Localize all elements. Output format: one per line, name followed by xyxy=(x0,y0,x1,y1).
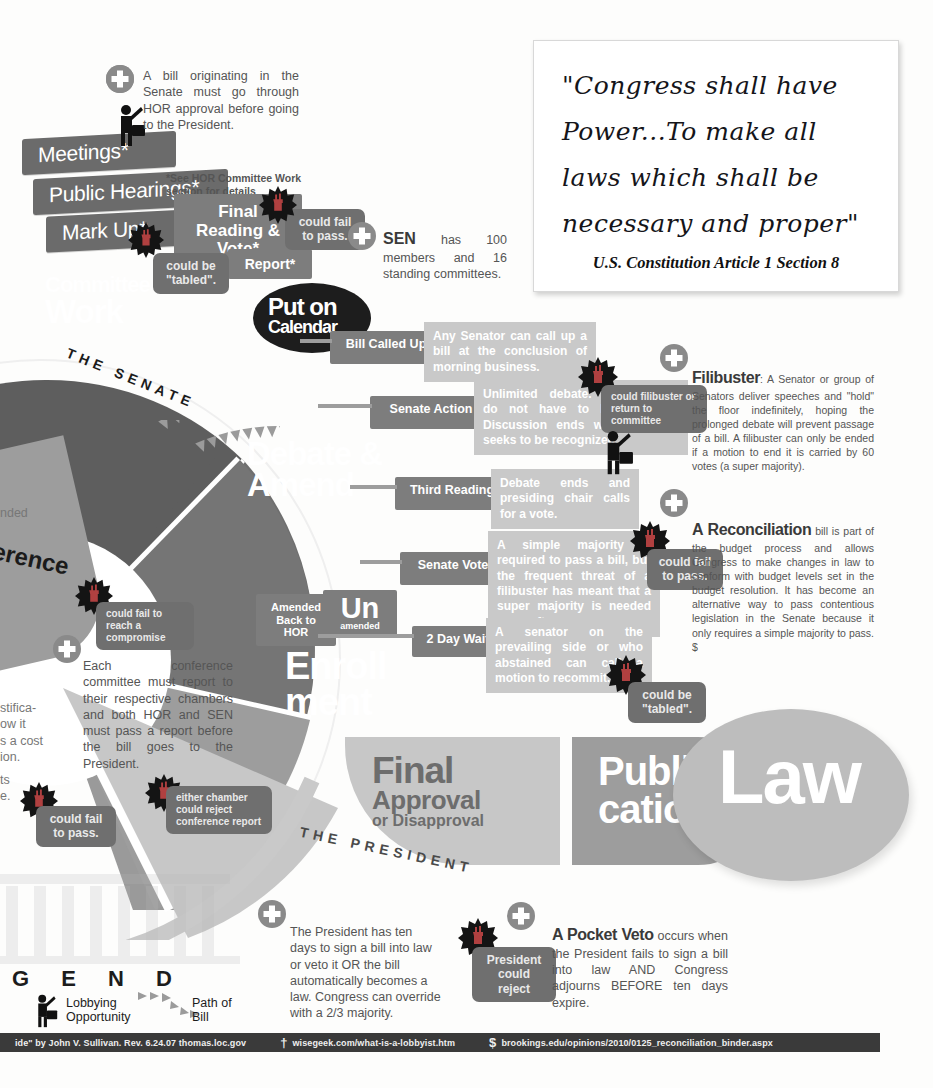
warning-could-be-tabled-2-text: could be "tabled". xyxy=(642,688,692,716)
quote-line-2: Power...To make all xyxy=(562,117,817,146)
step-report-label: Report* xyxy=(245,256,296,272)
warning-could-fail-compromise[interactable]: could fail to reach a compromise xyxy=(96,602,194,650)
warning-either-chamber-reject[interactable]: either chamber could reject conference r… xyxy=(166,786,272,834)
note-pocket-veto-title: A Pocket Veto xyxy=(552,926,654,943)
lobbyist-icon-senate xyxy=(594,423,634,477)
note-filibuster-body: : A Senator or group of Senators deliver… xyxy=(692,373,874,472)
flow-label-2-text: Third Reading xyxy=(410,483,494,497)
put-on-calendar-label: Put on Calendar xyxy=(268,296,337,336)
source-text-0: ide" by John V. Sullivan. Rev. 6.24.07 t… xyxy=(15,1038,246,1048)
flow-desc-0: Any Senator can call up a bill at the co… xyxy=(424,322,596,382)
step-meetings[interactable]: Meetings* xyxy=(22,131,176,175)
unamended-line1: Un xyxy=(329,594,391,623)
left-fragment-1: nded xyxy=(0,505,28,521)
legend-lobbying-label: Lobbying Opportunity xyxy=(66,996,131,1024)
quote-source: U.S. Constitution Article 1 Section 8 xyxy=(534,253,898,273)
final-approval-label: Final Approval or Disapproval xyxy=(372,753,484,828)
amended-line1: Amended xyxy=(271,601,321,613)
note-sen: SEN has 100 members and 16 standing comm… xyxy=(383,229,507,282)
capitol-building-ghost xyxy=(0,868,248,964)
unamended-line2: amended xyxy=(329,621,391,631)
warning-president-could-reject-text: President could reject xyxy=(487,953,542,996)
left-fragment-group-2: ts e. xyxy=(0,772,10,805)
quote-line-4-text: necessary and proper" xyxy=(562,209,859,238)
warning-could-be-tabled-2[interactable]: could be "tabled". xyxy=(628,682,706,723)
source-text-2: brookings.edu/opinions/2010/0125_reconci… xyxy=(501,1038,772,1048)
warning-either-chamber-reject-text: either chamber could reject conference r… xyxy=(176,792,261,827)
final-approval-line2: Approval xyxy=(372,788,484,813)
plus-icon-president xyxy=(258,900,286,928)
calendar-line2: Calendar xyxy=(268,319,337,336)
warning-could-be-tabled-1-text: could be "tabled". xyxy=(166,259,216,287)
note-senate-origin-text: A bill originating in the Senate must go… xyxy=(143,69,299,132)
warning-could-be-tabled-1[interactable]: could be "tabled". xyxy=(153,253,229,294)
legend-path-arrows-icon xyxy=(138,988,200,1022)
legend-path-line1: Path of xyxy=(192,996,232,1010)
flow-label-3-text: Senate Vote xyxy=(418,558,489,572)
quote-line-1: "Congress shall have xyxy=(562,71,838,100)
note-pocket-veto: A Pocket Veto occurs when the President … xyxy=(552,925,728,1011)
calendar-line1: Put on xyxy=(268,293,337,320)
note-reconciliation-body: bill is part of the budget process and a… xyxy=(692,525,874,653)
left-fragment-5-text: ion. xyxy=(0,750,20,764)
left-fragment-1-text: nded xyxy=(0,506,28,520)
left-fragment-6-text: ts xyxy=(0,773,10,787)
flow-label-4-text: 2 Day Wait xyxy=(427,632,490,646)
law-label: Law xyxy=(718,741,860,813)
note-senate-origin: A bill originating in the Senate must go… xyxy=(143,68,299,133)
source-symbol-1: † xyxy=(280,1035,287,1050)
source-item-2[interactable]: $ brookings.edu/opinions/2010/0125_recon… xyxy=(489,1035,773,1050)
plus-icon-filibuster xyxy=(660,344,688,372)
unamended-box[interactable]: Un amended xyxy=(323,590,397,637)
plus-icon-senate-origin xyxy=(106,65,134,93)
note-president: The President has ten days to sign a bil… xyxy=(290,924,442,1022)
plus-icon-pocket-veto xyxy=(507,902,535,930)
plus-icon-reconciliation xyxy=(660,489,688,517)
source-item-1[interactable]: † wisegeek.com/what-is-a-lobbyist.htm xyxy=(280,1035,455,1050)
note-filibuster: Filibuster: A Senator or group of Senato… xyxy=(692,367,874,474)
quote-line-1-text: "Congress shall have xyxy=(562,71,838,100)
amended-line2: Back to HOR xyxy=(276,614,316,639)
source-item-0[interactable]: ide" by John V. Sullivan. Rev. 6.24.07 t… xyxy=(10,1038,246,1048)
warning-president-could-reject[interactable]: President could reject xyxy=(472,947,556,1002)
step-report[interactable]: Report* xyxy=(228,249,312,279)
flow-desc-2: Debate ends and presiding chair calls fo… xyxy=(491,469,639,529)
enrollment-label: Enroll ment xyxy=(285,648,387,720)
quote-line-4: necessary and proper" xyxy=(562,209,859,238)
legend-lobbying-line1: Lobbying xyxy=(66,996,117,1010)
note-president-text: The President has ten days to sign a bil… xyxy=(290,925,441,1020)
committee-work-label: Committee Work xyxy=(45,275,150,327)
warning-could-fail-3[interactable]: could fail to pass. xyxy=(36,806,116,847)
left-fragment-group: stifica- ow it s a cost ion. xyxy=(0,700,43,765)
quote-source-text: U.S. Constitution Article 1 Section 8 xyxy=(593,253,839,272)
committee-work-line2: Work xyxy=(45,293,123,330)
flow-desc-0-text: Any Senator can call up a bill at the co… xyxy=(433,329,587,374)
enrollment-line2: ment xyxy=(285,684,387,720)
flow-label-0-text: Bill Called Up xyxy=(346,337,427,351)
warning-could-fail-compromise-text: could fail to reach a compromise xyxy=(106,608,165,643)
flow-desc-2-text: Debate ends and presiding chair calls fo… xyxy=(500,476,630,521)
note-reconciliation: A Reconciliation bill is part of the bud… xyxy=(692,519,874,654)
source-text-1: wisegeek.com/what-is-a-lobbyist.htm xyxy=(293,1038,456,1048)
warning-could-fail-3-text: could fail to pass. xyxy=(50,812,103,840)
left-fragment-2-text: stifica- xyxy=(0,701,36,715)
stop-burst-final-reading xyxy=(259,186,297,224)
quote-line-2-text: Power...To make all xyxy=(562,117,817,146)
note-conference: Each conference committee must report to… xyxy=(83,658,233,772)
final-approval-line3: or Disapproval xyxy=(372,813,484,828)
sources-bar: ide" by John V. Sullivan. Rev. 6.24.07 t… xyxy=(0,1033,880,1052)
legend-lobbyist-icon xyxy=(28,988,58,1030)
plus-icon-conference xyxy=(53,635,81,663)
step-mark-up[interactable]: Mark Up* xyxy=(46,209,190,253)
note-conference-text: Each conference committee must report to… xyxy=(83,659,233,771)
quote-line-3: laws which shall be xyxy=(562,163,819,192)
lobbyist-icon xyxy=(108,98,146,148)
flow-label-1-text: Senate Action xyxy=(390,402,473,416)
constitution-quote-card: "Congress shall have Power...To make all… xyxy=(533,40,899,292)
legend-path-line2: Bill xyxy=(192,1010,209,1024)
plus-icon-sen xyxy=(348,222,376,250)
legend-path-label: Path of Bill xyxy=(192,996,232,1024)
source-symbol-2: $ xyxy=(489,1035,496,1050)
left-fragment-4-text: s a cost xyxy=(0,734,43,748)
note-filibuster-title: Filibuster xyxy=(692,369,760,386)
